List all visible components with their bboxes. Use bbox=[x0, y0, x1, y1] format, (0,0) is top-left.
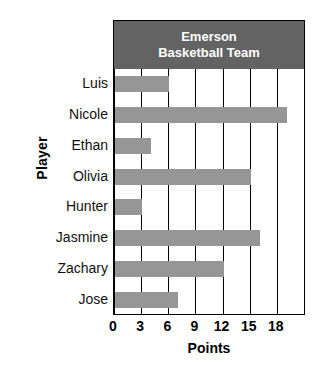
bar-chart-figure: Player LuisNicoleEthanOliviaHunterJasmin… bbox=[0, 0, 323, 375]
plot-area: Emerson Basketball Team bbox=[113, 20, 305, 315]
category-axis-labels: LuisNicoleEthanOliviaHunterJasmineZachar… bbox=[8, 68, 108, 300]
x-tick-label: 12 bbox=[207, 318, 237, 334]
chart-title-line-1: Emerson bbox=[181, 29, 237, 45]
x-tick-label: 18 bbox=[261, 318, 291, 334]
category-label: Jasmine bbox=[8, 230, 108, 244]
category-label: Luis bbox=[8, 76, 108, 90]
category-label: Nicole bbox=[8, 107, 108, 121]
x-tick-label: 9 bbox=[179, 318, 209, 334]
bars-layer bbox=[114, 69, 304, 314]
category-label: Ethan bbox=[8, 138, 108, 152]
category-label: Olivia bbox=[8, 169, 108, 183]
chart-title-banner: Emerson Basketball Team bbox=[114, 21, 304, 69]
gridline bbox=[304, 69, 305, 314]
bar bbox=[115, 107, 287, 123]
category-label: Jose bbox=[8, 292, 108, 306]
category-label: Zachary bbox=[8, 261, 108, 275]
bar bbox=[115, 138, 151, 154]
bar bbox=[115, 169, 251, 185]
category-label: Hunter bbox=[8, 199, 108, 213]
bar bbox=[115, 292, 178, 308]
x-tick-label: 15 bbox=[234, 318, 264, 334]
bar bbox=[115, 261, 224, 277]
x-tick-label: 0 bbox=[98, 318, 128, 334]
chart-title-line-2: Basketball Team bbox=[158, 45, 260, 61]
x-axis-tick-labels: 0369121518 bbox=[113, 318, 305, 336]
bar bbox=[115, 199, 142, 215]
x-axis-title: Points bbox=[113, 340, 305, 356]
bar bbox=[115, 230, 260, 246]
x-tick-label: 3 bbox=[125, 318, 155, 334]
bar bbox=[115, 76, 169, 92]
x-tick-label: 6 bbox=[152, 318, 182, 334]
